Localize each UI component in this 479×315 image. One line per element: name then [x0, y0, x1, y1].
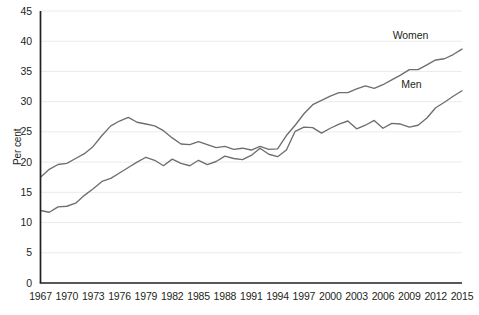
chart-container: Per cent 051015202530354045 196719701973… [0, 0, 479, 315]
series-lines [41, 49, 463, 212]
series-line-men [41, 91, 463, 212]
gridlines [41, 11, 463, 253]
axis-spines [40, 11, 462, 283]
plot-area [0, 0, 479, 315]
series-line-women [41, 49, 463, 177]
